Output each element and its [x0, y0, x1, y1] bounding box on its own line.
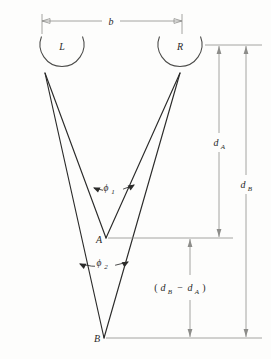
ray-right-to-a [106, 73, 180, 238]
distance-b-subscript: B [248, 185, 253, 193]
baseline-label: b [109, 16, 114, 27]
distance-a-symbol: d [214, 137, 220, 148]
stereo-geometry-figure: L R b ϕ 1 A ϕ 2 B d A d B ( [0, 0, 271, 359]
distance-difference-label: ( d B − d A ) [154, 282, 205, 296]
difference-second-symbol: d [188, 282, 194, 293]
difference-first-subscript: B [168, 288, 173, 296]
difference-minus-sign: − [177, 282, 183, 293]
distance-a-label: d A [214, 137, 226, 151]
distance-a-subscript: A [220, 143, 226, 151]
right-sensor-label: R [176, 41, 183, 52]
diff-arrowhead-top [188, 239, 193, 247]
diagram-canvas: L R b ϕ 1 A ϕ 2 B d A d B ( [0, 0, 271, 359]
left-sensor-label: L [58, 41, 65, 52]
distance-b-symbol: d [241, 179, 247, 190]
phi1-symbol: ϕ [104, 183, 109, 193]
phi2-arrowhead-left [79, 264, 87, 269]
difference-open-paren: ( [154, 282, 158, 294]
difference-close-paren: ) [202, 282, 205, 294]
point-b-label: B [94, 333, 100, 344]
ray-right-to-b [104, 73, 180, 338]
difference-first-symbol: d [161, 282, 167, 293]
da-arrowhead-bottom [217, 229, 222, 237]
point-a-label: A [95, 234, 103, 245]
db-arrowhead-bottom [244, 329, 249, 337]
phi2-subscript: 2 [104, 263, 108, 271]
difference-second-subscript: A [194, 288, 200, 296]
ray-left-to-a [45, 73, 106, 238]
phi2-arrowhead-right [122, 262, 129, 268]
phi2-symbol: ϕ [97, 258, 102, 268]
ray-left-to-b [45, 73, 104, 338]
da-arrowhead-top [217, 46, 222, 54]
diff-arrowhead-bottom [188, 329, 193, 337]
distance-b-label: d B [241, 179, 253, 193]
phi1-subscript: 1 [111, 188, 115, 196]
db-arrowhead-top [244, 46, 249, 54]
